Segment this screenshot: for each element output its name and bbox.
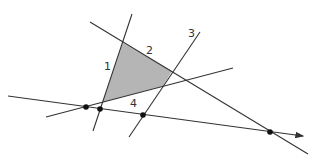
label-line-2: 2	[146, 44, 153, 57]
diagram-canvas: 1 2 3 4	[0, 0, 317, 160]
label-line-4: 4	[130, 97, 137, 110]
intersection-point	[97, 106, 103, 112]
intersection-point	[140, 112, 146, 118]
diagram-svg: 1 2 3 4	[0, 0, 317, 160]
intersection-point	[267, 129, 273, 135]
label-line-1: 1	[104, 60, 111, 73]
intersection-point	[83, 104, 89, 110]
label-line-3: 3	[188, 27, 195, 40]
baseline-arrow	[8, 96, 303, 136]
